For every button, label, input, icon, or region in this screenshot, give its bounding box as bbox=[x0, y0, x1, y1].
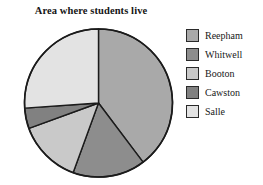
legend-label: Salle bbox=[205, 106, 225, 117]
legend-swatch-whitwell bbox=[186, 48, 199, 61]
legend-item-reepham[interactable]: Reepham bbox=[186, 26, 263, 45]
legend-item-whitwell[interactable]: Whitwell bbox=[186, 45, 263, 64]
legend-swatch-booton bbox=[186, 67, 199, 80]
legend-swatch-cawston bbox=[186, 86, 199, 99]
legend-label: Cawston bbox=[205, 87, 240, 98]
pie-svg bbox=[0, 0, 182, 185]
legend-swatch-salle bbox=[186, 105, 199, 118]
legend-item-booton[interactable]: Booton bbox=[186, 64, 263, 83]
legend-label: Reepham bbox=[205, 30, 243, 41]
pie-chart-figure: Area where students live ReephamWhitwell… bbox=[0, 0, 263, 185]
legend-item-salle[interactable]: Salle bbox=[186, 102, 263, 121]
legend-label: Whitwell bbox=[205, 49, 242, 60]
pie-plot-area bbox=[0, 0, 182, 185]
legend-item-cawston[interactable]: Cawston bbox=[186, 83, 263, 102]
legend-swatch-reepham bbox=[186, 29, 199, 42]
legend-label: Booton bbox=[205, 68, 234, 79]
chart-legend: ReephamWhitwellBootonCawstonSalle bbox=[186, 26, 263, 121]
pie-slice-salle[interactable] bbox=[24, 29, 98, 108]
